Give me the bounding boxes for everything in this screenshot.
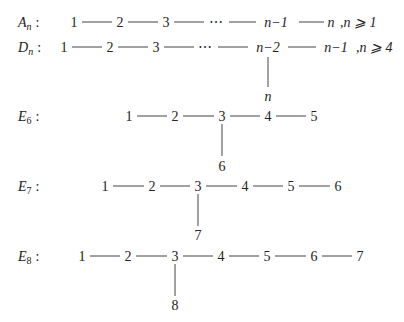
node: 2 <box>149 179 156 194</box>
diagram-a-n: An: 1 2 3 ⋯ n−1 n ,n ⩾ 1 <box>17 15 377 32</box>
label-d-n: Dn: <box>17 40 41 57</box>
node: 3 <box>163 15 170 30</box>
node: n <box>328 15 335 30</box>
condition: ,n ⩾ 4 <box>356 40 393 55</box>
node: 2 <box>125 249 132 264</box>
node: 3 <box>153 40 160 55</box>
node: 2 <box>117 15 124 30</box>
diagram-e7: E7: 1 2 3 4 5 6 7 <box>17 179 342 243</box>
node: 6 <box>311 249 318 264</box>
diagram-e8: E8: 1 2 3 4 5 6 7 8 <box>17 249 364 313</box>
node: 1 <box>102 179 109 194</box>
dynkin-diagrams: An: 1 2 3 ⋯ n−1 n ,n ⩾ 1 Dn: 1 2 3 ⋯ n−2… <box>0 0 404 322</box>
label-e7: E7: <box>17 179 39 196</box>
node: 5 <box>264 249 271 264</box>
label-e6: E6: <box>17 109 39 126</box>
branch-node: n <box>265 89 272 104</box>
node: 7 <box>357 249 364 264</box>
node: 1 <box>71 15 78 30</box>
branch-node: 7 <box>195 228 202 243</box>
node-ellipsis: ⋯ <box>198 40 212 55</box>
node: 5 <box>288 179 295 194</box>
label-e8: E8: <box>17 249 39 266</box>
node: 4 <box>242 179 249 194</box>
node-ellipsis: ⋯ <box>209 15 223 30</box>
branch-node: 6 <box>219 159 226 174</box>
diagram-d-n: Dn: 1 2 3 ⋯ n−2 n−1 ,n ⩾ 4 n <box>17 40 393 104</box>
node: 5 <box>311 109 318 124</box>
node: 4 <box>265 109 272 124</box>
node: 1 <box>126 109 133 124</box>
node: 6 <box>335 179 342 194</box>
node: 3 <box>195 179 202 194</box>
node: 3 <box>219 109 226 124</box>
diagram-e6: E6: 1 2 3 4 5 6 <box>17 109 318 174</box>
node: 1 <box>61 40 68 55</box>
node: 4 <box>218 249 225 264</box>
node: n−2 <box>256 40 279 55</box>
node: 3 <box>172 249 179 264</box>
node: 2 <box>172 109 179 124</box>
node: n−1 <box>324 40 347 55</box>
node: 1 <box>79 249 86 264</box>
node: n−1 <box>264 15 287 30</box>
condition: ,n ⩾ 1 <box>340 15 377 30</box>
branch-node: 8 <box>172 298 179 313</box>
node: 2 <box>107 40 114 55</box>
label-a-n: An: <box>17 15 39 32</box>
